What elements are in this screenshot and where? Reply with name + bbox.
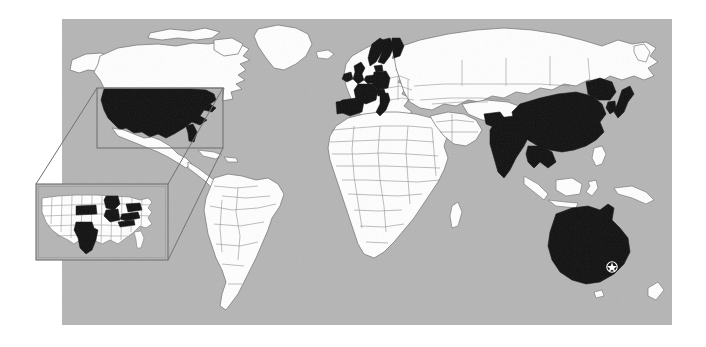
world-map-svg <box>0 0 706 347</box>
scan-grain <box>62 19 672 325</box>
world-map-figure: World map of participating countries Uni… <box>0 0 706 347</box>
